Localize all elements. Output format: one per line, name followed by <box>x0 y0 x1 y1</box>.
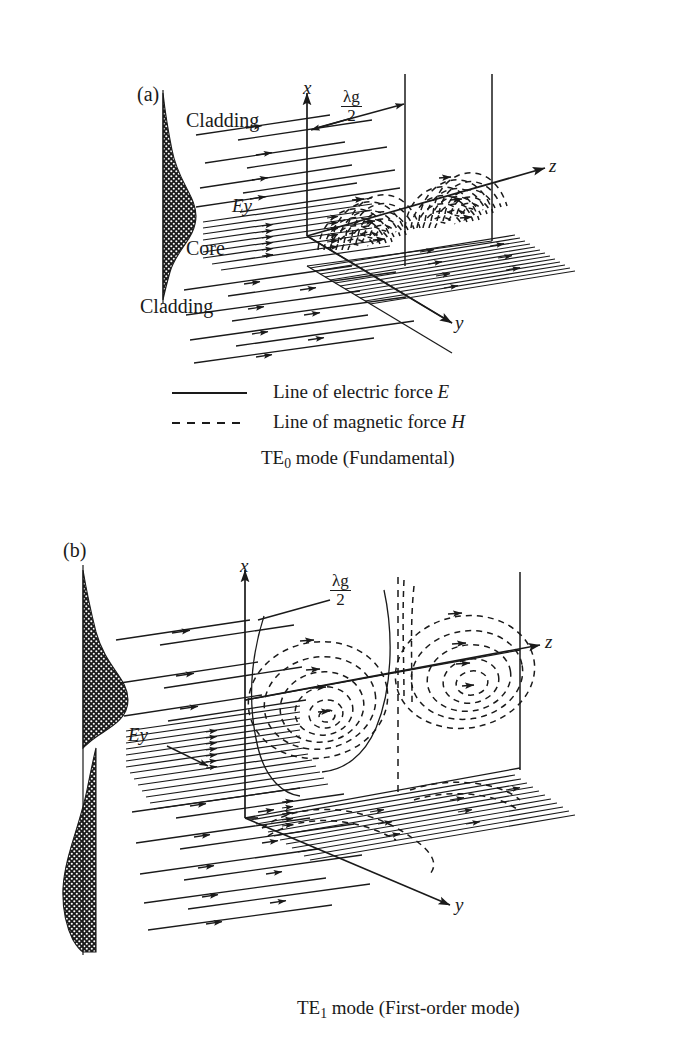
panel-a-tag: (a) <box>137 84 159 104</box>
panel-a-label-cladding-top: Cladding <box>186 110 259 130</box>
panel-a-caption-suffix: mode (Fundamental) <box>291 447 455 468</box>
panel-a-label-core: Core <box>186 238 225 258</box>
panel-a-cladding-bottom-field-lines <box>184 266 414 363</box>
panel-b-period-dimension <box>258 600 330 620</box>
legend-electric-symbol: E <box>438 381 450 402</box>
panel-a-period-denominator: 2 <box>341 107 362 125</box>
panel-b-axis-label-z: z <box>545 632 552 651</box>
panel-b-label-ey: Ey <box>128 725 148 744</box>
panel-b-tag: (b) <box>63 540 86 560</box>
panel-a-label-ey: Ey <box>232 196 252 215</box>
panel-b-magnetic-vortices <box>239 580 544 874</box>
panel-a-axis-label-x: x <box>303 78 311 97</box>
panel-b-field-lines-lower <box>132 788 370 930</box>
panel-a-period-numerator: λg <box>341 88 362 107</box>
panel-a-axis-label-y: y <box>455 313 463 332</box>
panel-b-period-label: λg 2 <box>330 572 351 609</box>
panel-b-caption-suffix: mode (First-order mode) <box>327 997 520 1018</box>
legend-magnetic-symbol: H <box>451 411 465 432</box>
panel-a-label-cladding-bottom: Cladding <box>140 296 213 316</box>
panel-b-axis-label-y: y <box>455 895 463 914</box>
panel-a-period-label: λg 2 <box>341 88 362 125</box>
panel-a-axis-label-z: z <box>549 156 556 175</box>
legend-electric-text: Line of electric force <box>273 381 438 402</box>
panel-b-period-denominator: 2 <box>330 591 351 609</box>
legend-item-electric: Line of electric force E <box>273 382 449 401</box>
panel-b-caption-prefix: TE <box>297 997 320 1018</box>
legend-samples <box>172 393 247 423</box>
panel-b-axis-label-x: x <box>240 556 248 575</box>
figure-root: (a) Cladding Ey Core Cladding x z y λg 2… <box>0 0 700 1052</box>
panel-a-caption: TE0 mode (Fundamental) <box>261 448 455 471</box>
panel-a-caption-prefix: TE <box>261 447 284 468</box>
legend-magnetic-text: Line of magnetic force <box>273 411 451 432</box>
panel-b-field-lines-upper <box>116 620 306 721</box>
panel-b-caption: TE1 mode (First-order mode) <box>297 998 520 1021</box>
panel-b-ey-profile <box>63 565 128 955</box>
panel-b-period-numerator: λg <box>330 572 351 591</box>
panel-b-drawing <box>63 565 575 955</box>
legend-item-magnetic: Line of magnetic force H <box>273 412 465 431</box>
waveguide-mode-diagram <box>0 0 700 1052</box>
